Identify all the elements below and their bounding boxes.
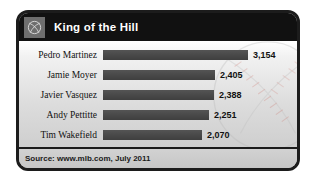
baseball-icon <box>24 17 45 38</box>
table-row: Pedro Martinez 3,154 <box>19 45 297 65</box>
table-row: Tim Wakefield 2,070 <box>19 125 297 145</box>
bar-value-label: 2,405 <box>220 70 243 80</box>
bar-value-label: 3,154 <box>253 50 276 60</box>
bar-value-label: 2,251 <box>214 110 237 120</box>
bar-track: 2,388 <box>103 90 297 100</box>
bar <box>103 110 209 120</box>
bar <box>103 50 248 60</box>
bar-value-label: 2,388 <box>219 90 242 100</box>
bar-category-label: Tim Wakefield <box>19 130 103 140</box>
bar <box>103 70 215 80</box>
bar-value-label: 2,070 <box>207 130 230 140</box>
bar-track: 2,070 <box>103 130 297 140</box>
chart-card: King of the Hill Pedro Martinez 3,15 <box>16 10 300 171</box>
table-row: Andy Pettitte 2,251 <box>19 105 297 125</box>
chart-plot-area: Pedro Martinez 3,154 Jamie Moyer 2,405 J… <box>19 41 297 147</box>
page-title: King of the Hill <box>54 21 138 33</box>
chart-footer: Source: www.mlb.com, July 2011 <box>19 147 297 168</box>
bar-category-label: Javier Vasquez <box>19 90 103 100</box>
table-row: Jamie Moyer 2,405 <box>19 65 297 85</box>
chart-title-bar: King of the Hill <box>19 13 297 41</box>
bar-category-label: Andy Pettitte <box>19 110 103 120</box>
table-row: Javier Vasquez 2,388 <box>19 85 297 105</box>
bar-track: 3,154 <box>103 50 297 60</box>
bar-track: 2,251 <box>103 110 297 120</box>
bar-track: 2,405 <box>103 70 297 80</box>
bar-rows: Pedro Martinez 3,154 Jamie Moyer 2,405 J… <box>19 41 297 147</box>
bar <box>103 90 214 100</box>
bar-category-label: Jamie Moyer <box>19 70 103 80</box>
source-note: Source: www.mlb.com, July 2011 <box>25 154 151 163</box>
bar-category-label: Pedro Martinez <box>19 50 103 60</box>
bar <box>103 130 202 140</box>
